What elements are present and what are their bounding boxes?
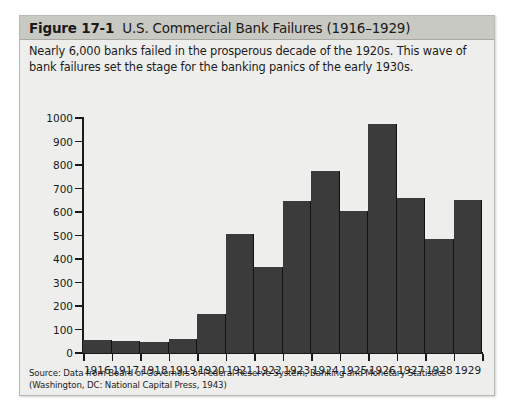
y-axis-tick-label: 200 — [21, 300, 73, 312]
x-axis-tick — [112, 354, 114, 361]
figure-title: U.S. Commercial Bank Failures (1916–1929… — [122, 20, 410, 36]
x-axis-tick — [482, 354, 484, 361]
y-axis-tick — [75, 329, 83, 331]
y-axis-tick-label: 100 — [21, 324, 73, 336]
bar-1928 — [425, 239, 454, 353]
y-axis-tick — [75, 235, 83, 237]
y-axis-tick — [75, 188, 83, 190]
figure-caption: Nearly 6,000 banks failed in the prosper… — [29, 44, 481, 75]
y-axis-tick — [75, 352, 83, 354]
y-axis-tick-label: 300 — [21, 277, 73, 289]
bar-1929 — [454, 200, 483, 353]
x-axis-tick — [311, 354, 313, 361]
y-axis-tick — [75, 258, 83, 260]
bar-1921 — [226, 234, 255, 353]
x-axis-tick — [425, 354, 427, 361]
figure-number: Figure 17-1 — [29, 20, 114, 36]
x-axis-tick — [197, 354, 199, 361]
y-axis-tick-label: 900 — [21, 136, 73, 148]
bar-1923 — [283, 201, 312, 353]
y-axis-tick — [75, 164, 83, 166]
bar-1916 — [83, 340, 112, 353]
bar-1917 — [112, 341, 141, 353]
bar-1924 — [311, 171, 340, 353]
bar-1919 — [169, 339, 198, 353]
y-axis-tick — [75, 305, 83, 307]
y-axis-tick-label: 800 — [21, 159, 73, 171]
y-axis-tick-label: 1000 — [21, 112, 73, 124]
bar-1926 — [368, 124, 397, 353]
x-axis-tick — [283, 354, 285, 361]
bar-1925 — [340, 211, 369, 353]
x-axis-tick — [454, 354, 456, 361]
x-axis-tick — [397, 354, 399, 361]
figure-header: Figure 17-1 U.S. Commercial Bank Failure… — [20, 16, 494, 40]
x-axis-tick — [254, 354, 256, 361]
x-axis-tick — [340, 354, 342, 361]
y-axis-tick — [75, 211, 83, 213]
bar-1922 — [254, 267, 283, 353]
plot-bars — [83, 118, 482, 353]
y-axis-tick-label: 500 — [21, 230, 73, 242]
x-axis-tick — [83, 354, 85, 361]
x-axis-tick — [368, 354, 370, 361]
x-axis-tick — [140, 354, 142, 361]
source-note: Source: Data from Board of Governors of … — [29, 368, 487, 391]
y-axis-tick-label: 700 — [21, 183, 73, 195]
bar-1920 — [197, 314, 226, 353]
y-axis-tick — [75, 282, 83, 284]
x-axis-tick — [169, 354, 171, 361]
y-axis-tick-label: 600 — [21, 206, 73, 218]
figure-panel: Figure 17-1 U.S. Commercial Bank Failure… — [19, 15, 495, 396]
bar-chart: 01002003004005006007008009001000 1916191… — [20, 78, 496, 363]
y-axis-tick — [75, 117, 83, 119]
bar-1927 — [397, 198, 426, 353]
y-axis-tick — [75, 141, 83, 143]
bar-1918 — [140, 342, 169, 353]
x-axis-tick — [226, 354, 228, 361]
y-axis-tick-label: 0 — [21, 347, 73, 359]
y-axis-tick-label: 400 — [21, 253, 73, 265]
